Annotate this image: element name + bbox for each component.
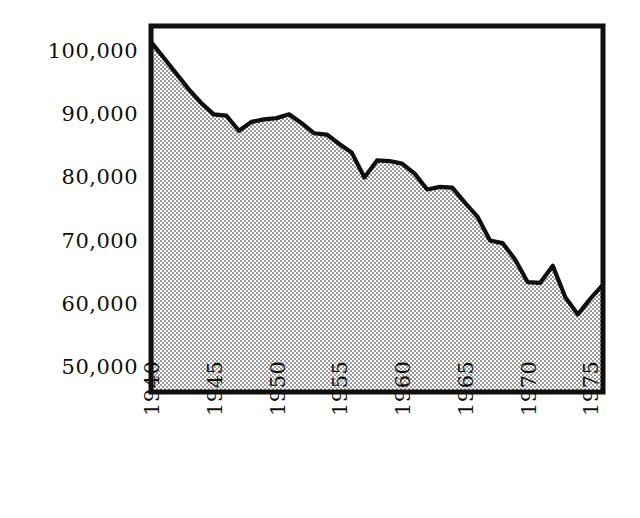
x-tick-label: 1940 bbox=[140, 361, 164, 416]
y-tick-label: 90,000 bbox=[62, 102, 138, 126]
y-tick-label: 80,000 bbox=[62, 165, 138, 189]
x-tick-label: 1965 bbox=[454, 361, 478, 416]
x-tick-label: 1945 bbox=[203, 361, 227, 416]
x-tick-label: 1960 bbox=[391, 361, 415, 416]
x-tick-label: 1955 bbox=[328, 361, 352, 416]
y-tick-label: 70,000 bbox=[62, 229, 138, 253]
chart-page: 50,00060,00070,00080,00090,000100,000 19… bbox=[0, 0, 640, 518]
y-axis-tick-labels: 50,00060,00070,00080,00090,000100,000 bbox=[48, 39, 138, 379]
plot-area bbox=[151, 26, 603, 392]
y-tick-label: 60,000 bbox=[62, 292, 138, 316]
x-tick-label: 1975 bbox=[579, 361, 603, 416]
y-tick-label: 100,000 bbox=[48, 39, 138, 63]
y-tick-label: 50,000 bbox=[62, 355, 138, 379]
x-tick-label: 1970 bbox=[517, 361, 541, 416]
area-chart: 50,00060,00070,00080,00090,000100,000 19… bbox=[0, 0, 640, 518]
x-tick-label: 1950 bbox=[266, 361, 290, 416]
